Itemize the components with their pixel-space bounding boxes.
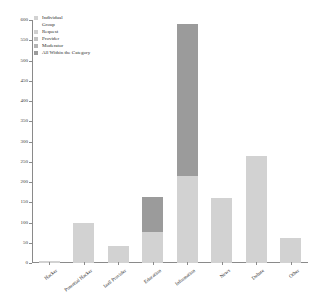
bar-segment[interactable] bbox=[177, 24, 198, 175]
plot-area bbox=[32, 20, 308, 263]
y-axis-tick: 450 bbox=[0, 81, 32, 82]
y-axis-tick: 50 bbox=[0, 243, 32, 244]
y-tick-label: 600 bbox=[21, 16, 29, 23]
x-tick-label: IaaS Provider bbox=[103, 268, 128, 290]
legend-swatch-icon bbox=[34, 44, 38, 48]
x-tick-mark bbox=[84, 262, 85, 265]
y-tick-label: 350 bbox=[21, 117, 29, 124]
bar-column[interactable] bbox=[211, 198, 232, 263]
y-axis-tick: 300 bbox=[0, 142, 32, 143]
y-axis-tick: 250 bbox=[0, 162, 32, 163]
legend-item-label: Individual bbox=[42, 14, 63, 21]
bar-column[interactable] bbox=[142, 197, 163, 263]
y-axis-tick: 400 bbox=[0, 101, 32, 102]
x-tick-label: Other bbox=[288, 268, 301, 280]
bar-column[interactable] bbox=[280, 238, 301, 263]
y-tick-label: 200 bbox=[21, 178, 29, 185]
bar-chart: 050100150200250300350400450500550600 Hac… bbox=[0, 0, 318, 303]
bar-column[interactable] bbox=[246, 156, 267, 263]
bar-segment[interactable] bbox=[142, 232, 163, 263]
y-axis-tick: 0 bbox=[0, 263, 32, 264]
y-tick-label: 100 bbox=[21, 219, 29, 226]
y-tick-label: 450 bbox=[21, 77, 29, 84]
x-tick-mark bbox=[118, 262, 119, 265]
bar-segment[interactable] bbox=[108, 246, 129, 263]
legend-item[interactable]: Group bbox=[34, 21, 90, 28]
legend-item[interactable]: All Within the Category bbox=[34, 49, 90, 56]
y-tick-label: 0 bbox=[26, 259, 29, 266]
y-tick-label: 300 bbox=[21, 138, 29, 145]
legend-item-label: Request bbox=[42, 28, 58, 35]
legend-item-label: Moderator bbox=[42, 42, 63, 49]
bar-segment[interactable] bbox=[142, 197, 163, 233]
legend-item-label: Provider bbox=[42, 35, 59, 42]
bar-segment[interactable] bbox=[177, 176, 198, 263]
x-tick-mark bbox=[256, 262, 257, 265]
y-tick-label: 250 bbox=[21, 158, 29, 165]
legend-swatch-icon bbox=[34, 23, 38, 27]
y-axis-tick: 200 bbox=[0, 182, 32, 183]
x-tick-label: Debate bbox=[251, 268, 266, 281]
x-tick-label: News bbox=[219, 268, 232, 280]
legend-item-label: All Within the Category bbox=[42, 49, 90, 56]
bar-column[interactable] bbox=[108, 246, 129, 263]
y-tick-label: 500 bbox=[21, 57, 29, 64]
y-axis-tick: 500 bbox=[0, 61, 32, 62]
y-axis-tick: 350 bbox=[0, 121, 32, 122]
x-tick-label: Potential Hacker bbox=[63, 268, 93, 293]
x-tick-mark bbox=[291, 262, 292, 265]
legend-swatch-icon bbox=[34, 37, 38, 41]
x-tick-mark bbox=[187, 262, 188, 265]
bar-segment[interactable] bbox=[280, 238, 301, 263]
legend-item[interactable]: Individual bbox=[34, 14, 90, 21]
legend-swatch-icon bbox=[34, 30, 38, 34]
x-tick-label: Information bbox=[174, 268, 197, 287]
x-tick-label: Education bbox=[143, 268, 163, 285]
bar-segment[interactable] bbox=[73, 223, 94, 263]
legend-item-label: Group bbox=[42, 21, 55, 28]
y-axis-tick: 100 bbox=[0, 223, 32, 224]
y-tick-mark bbox=[29, 263, 32, 264]
y-tick-label: 150 bbox=[21, 198, 29, 205]
x-tick-mark bbox=[49, 262, 50, 265]
y-tick-label: 400 bbox=[21, 97, 29, 104]
y-axis-tick: 600 bbox=[0, 20, 32, 21]
legend-item[interactable]: Provider bbox=[34, 35, 90, 42]
legend-item[interactable]: Moderator bbox=[34, 42, 90, 49]
x-tick-label: Hacker bbox=[44, 268, 59, 282]
y-axis-tick: 550 bbox=[0, 40, 32, 41]
bar-segment[interactable] bbox=[211, 198, 232, 263]
bar-column[interactable] bbox=[73, 223, 94, 263]
x-tick-mark bbox=[222, 262, 223, 265]
x-tick-mark bbox=[153, 262, 154, 265]
chart-legend: IndividualGroupRequestProviderModeratorA… bbox=[34, 14, 90, 56]
y-tick-label: 550 bbox=[21, 36, 29, 43]
legend-item[interactable]: Request bbox=[34, 28, 90, 35]
y-axis-tick: 150 bbox=[0, 202, 32, 203]
bar-segment[interactable] bbox=[246, 156, 267, 263]
legend-swatch-icon bbox=[34, 16, 38, 20]
y-tick-label: 50 bbox=[23, 239, 28, 246]
bar-column[interactable] bbox=[177, 24, 198, 263]
legend-swatch-icon bbox=[34, 51, 38, 55]
